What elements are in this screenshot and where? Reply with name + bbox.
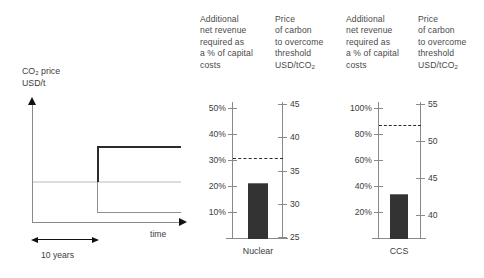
- ccs-left-tick-label: 100%: [339, 104, 372, 113]
- ccs-left-tick: [374, 134, 383, 135]
- line-chart-x-axis: [32, 222, 180, 223]
- nuclear-right-tick-label: 35: [290, 167, 300, 176]
- span-line: [36, 239, 94, 241]
- ccs-right-tick: [416, 215, 425, 216]
- nuclear-right-axis-header: Price of carbon to overcome threshold US…: [275, 14, 341, 72]
- nuclear-right-tick: [278, 104, 287, 105]
- ccs-category-label: CCS: [375, 246, 423, 256]
- span-arrow-right-icon: [92, 237, 99, 243]
- ccs-left-tick: [374, 212, 383, 213]
- ten-years-span-annotation: [31, 236, 101, 246]
- nuclear-category-label: Nuclear: [234, 246, 282, 256]
- nuclear-left-tick-label: 30%: [199, 156, 226, 165]
- series-raised-price-plateau: [97, 146, 181, 148]
- panel-nuclear: Additional net revenue required as a % o…: [196, 0, 346, 278]
- nuclear-left-tick-label: 20%: [199, 182, 226, 191]
- ccs-left-tick-label: 20%: [339, 208, 372, 217]
- ccs-right-tick-label: 45: [428, 174, 438, 183]
- nuclear-left-tick: [228, 212, 237, 213]
- nuclear-left-tick: [228, 108, 237, 109]
- nuclear-right-tick: [278, 237, 287, 238]
- nuclear-right-tick-label: 40: [290, 133, 300, 142]
- x-axis-arrowhead-icon: [179, 218, 187, 226]
- nuclear-left-tick: [228, 160, 237, 161]
- ccs-right-tick: [416, 104, 425, 105]
- series-raised-price-riser: [97, 146, 99, 182]
- nuclear-right-tick-label: 25: [290, 233, 300, 242]
- nuclear-threshold-dashed-line: [233, 158, 283, 159]
- ccs-left-tick: [374, 108, 383, 109]
- nuclear-left-tick: [228, 186, 237, 187]
- nuclear-right-tick: [278, 204, 287, 205]
- ccs-left-tick-label: 40%: [339, 182, 372, 191]
- y-axis-arrowhead-icon: [28, 97, 36, 105]
- line-chart-y-axis: [32, 105, 33, 223]
- nuclear-right-tick: [278, 171, 287, 172]
- line-chart-x-axis-caption: time: [150, 230, 166, 239]
- ccs-left-axis-header: Additional net revenue required as a % o…: [346, 14, 410, 71]
- series-lowered-price-riser: [97, 182, 98, 213]
- ten-years-label: 10 years: [41, 251, 74, 260]
- ccs-threshold-dashed-line: [379, 125, 421, 126]
- nuclear-right-tick: [278, 137, 287, 138]
- nuclear-bar: [248, 183, 268, 239]
- line-chart-y-axis-label: CO₂ price USD/t: [22, 66, 108, 89]
- nuclear-left-tick-label: 40%: [199, 130, 226, 139]
- ccs-right-tick: [416, 178, 425, 179]
- nuclear-left-tick-label: 50%: [199, 104, 226, 113]
- nuclear-left-tick-label: 10%: [199, 208, 226, 217]
- figure-canvas: CO₂ price USD/t time 10 years Additiona: [0, 0, 484, 278]
- ccs-bar: [390, 194, 408, 239]
- series-lowered-price-plateau: [97, 212, 181, 213]
- ccs-right-tick-label: 50: [428, 137, 438, 146]
- nuclear-left-axis-header: Additional net revenue required as a % o…: [200, 14, 264, 71]
- ccs-left-tick: [374, 160, 383, 161]
- ccs-right-tick: [416, 141, 425, 142]
- panel-ccs: Additional net revenue required as a % o…: [346, 0, 484, 278]
- nuclear-right-tick-label: 30: [290, 200, 300, 209]
- nuclear-right-tick-label: 45: [290, 100, 300, 109]
- panel-co2-price-path: CO₂ price USD/t time 10 years: [0, 0, 196, 278]
- ccs-right-axis-header: Price of carbon to overcome threshold US…: [418, 14, 484, 72]
- ccs-left-axis: [378, 102, 379, 239]
- ccs-left-tick-label: 60%: [339, 156, 372, 165]
- nuclear-left-axis: [232, 102, 233, 239]
- ccs-right-tick-label: 40: [428, 211, 438, 220]
- nuclear-left-tick: [228, 134, 237, 135]
- ccs-left-tick: [374, 186, 383, 187]
- ccs-right-tick-label: 55: [428, 100, 438, 109]
- series-reference-price-flat: [33, 181, 181, 183]
- ccs-right-axis: [420, 102, 421, 239]
- ccs-left-tick-label: 80%: [339, 130, 372, 139]
